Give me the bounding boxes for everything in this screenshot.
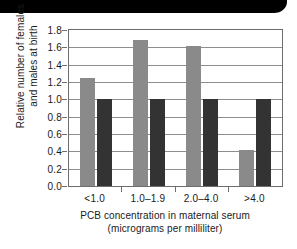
x-axis-tick-mark (175, 187, 176, 192)
x-axis-tick-labels: <1.01.0–1.92.0–4.0>4.0 (68, 193, 283, 208)
y-axis-tick-label: 0.8 (47, 111, 62, 122)
bar-males-3 (256, 99, 271, 186)
bar-males-1 (150, 99, 165, 186)
header-band (0, 0, 287, 13)
y-axis-tick-mark (62, 117, 67, 118)
y-axis-tick-labels: 0.00.20.40.60.81.01.21.41.61.8 (0, 29, 66, 187)
bar-series-container (69, 30, 282, 186)
x-axis-tick-label: 2.0–4.0 (184, 193, 219, 204)
bar-males-0 (97, 99, 112, 186)
x-axis-title: PCB concentration in maternal serum (mic… (40, 209, 290, 235)
y-axis-tick-label: 1.4 (47, 59, 62, 70)
y-axis-tick-label: 1.8 (47, 25, 62, 36)
y-axis-tick-label: 1.2 (47, 77, 62, 88)
bar-females-1 (133, 40, 148, 186)
y-axis-tick-label: 1.0 (47, 94, 62, 105)
bar-females-2 (186, 46, 201, 186)
y-axis-tick-mark (62, 30, 67, 31)
y-axis-tick-label: 0.6 (47, 129, 62, 140)
y-axis-tick-label: 0.2 (47, 163, 62, 174)
y-axis-tick-mark (62, 169, 67, 170)
x-axis-tick-label: >4.0 (244, 193, 265, 204)
chart-figure: Relative number of females and males at … (0, 13, 297, 249)
y-axis-tick-mark (62, 47, 67, 48)
y-axis-tick-label: 1.6 (47, 42, 62, 53)
bar-females-0 (80, 78, 95, 186)
y-axis-tick-mark (62, 151, 67, 152)
y-axis-tick-mark (62, 186, 67, 187)
y-axis-tick-mark (62, 82, 67, 83)
y-axis-tick-mark (62, 99, 67, 100)
x-axis-title-line-1: PCB concentration in maternal serum (80, 210, 250, 221)
x-axis-tick-label: <1.0 (84, 193, 105, 204)
y-axis-tick-mark (62, 65, 67, 66)
bar-females-3 (239, 150, 254, 186)
x-axis-tick-mark (121, 187, 122, 192)
y-axis-tick-label: 0.0 (47, 181, 62, 192)
x-axis-tick-mark (228, 187, 229, 192)
bar-males-2 (203, 99, 218, 186)
y-axis-tick-mark (62, 134, 67, 135)
x-axis-title-line-2: (micrograms per milliliter) (108, 223, 223, 234)
x-axis-tick-label: 1.0–1.9 (130, 193, 165, 204)
y-axis-tick-label: 0.4 (47, 146, 62, 157)
